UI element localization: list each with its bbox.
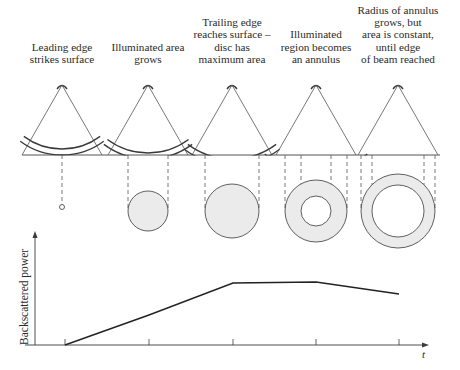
x-axis-label: t — [422, 348, 425, 360]
beam-edge-right — [316, 85, 356, 155]
beam-edge-right — [62, 85, 102, 155]
caption-line: disc has — [193, 41, 270, 53]
caption-stage-5: Radius of annulusgrows, butarea is const… — [358, 4, 439, 65]
caption-stage-2: Illuminated areagrows — [112, 41, 185, 65]
caption-line: until edge — [358, 41, 439, 53]
y-axis-label: Backscattered power — [18, 249, 30, 345]
beam-edge-left — [276, 85, 316, 155]
caption-stage-3: Trailing edgereaches surface –disc hasma… — [193, 16, 270, 65]
caption-line: Illuminated area — [112, 41, 185, 53]
beam-edge-left — [192, 85, 232, 155]
caption-line: Trailing edge — [193, 16, 270, 28]
caption-line: reaches surface – — [193, 28, 270, 40]
leading-edge-wavefront — [104, 144, 192, 159]
caption-line: grows — [112, 53, 185, 65]
beam-edge-right — [232, 85, 272, 155]
footprint-point — [60, 205, 65, 210]
trailing-edge-wavefront — [188, 144, 276, 159]
caption-line: of beam reached — [358, 53, 439, 65]
beam-edge-left — [358, 85, 398, 155]
caption-line: grows, but — [358, 16, 439, 28]
antenna-icon — [143, 86, 153, 90]
trailing-edge-wavefront — [107, 140, 188, 153]
trailing-edge-wavefront — [24, 136, 100, 149]
leading-edge-wavefront — [261, 159, 371, 177]
footprint-annulus-inner — [301, 196, 331, 226]
antenna-icon — [227, 86, 237, 90]
footprint-disc — [128, 191, 168, 231]
caption-line: Leading edge — [30, 41, 94, 53]
caption-line: Radius of annulus — [358, 4, 439, 16]
caption-line: Illuminated — [281, 28, 352, 40]
footprint-disc — [205, 184, 259, 238]
antenna-icon — [311, 86, 321, 90]
caption-stage-1: Leading edgestrikes surface — [30, 41, 94, 65]
trailing-edge-wavefront — [265, 154, 368, 171]
caption-line: strikes surface — [30, 53, 94, 65]
footprint-annulus-inner — [372, 185, 424, 237]
antenna-icon — [393, 86, 403, 90]
caption-stage-4: Illuminatedregion becomesan annulus — [281, 28, 352, 65]
caption-line: area is constant, — [358, 28, 439, 40]
caption-line: an annulus — [281, 53, 352, 65]
antenna-icon — [57, 86, 67, 90]
beam-edge-right — [398, 85, 438, 155]
backscatter-curve — [65, 282, 399, 345]
y-axis-arrow-icon — [33, 231, 38, 238]
x-axis-arrow-icon — [422, 343, 429, 348]
pulse-footprint-diagram: Leading edgestrikes surfaceIlluminated a… — [0, 0, 460, 370]
caption-line: maximum area — [193, 53, 270, 65]
beam-edge-left — [22, 85, 62, 155]
leading-edge-wavefront — [20, 141, 104, 155]
caption-line: region becomes — [281, 41, 352, 53]
